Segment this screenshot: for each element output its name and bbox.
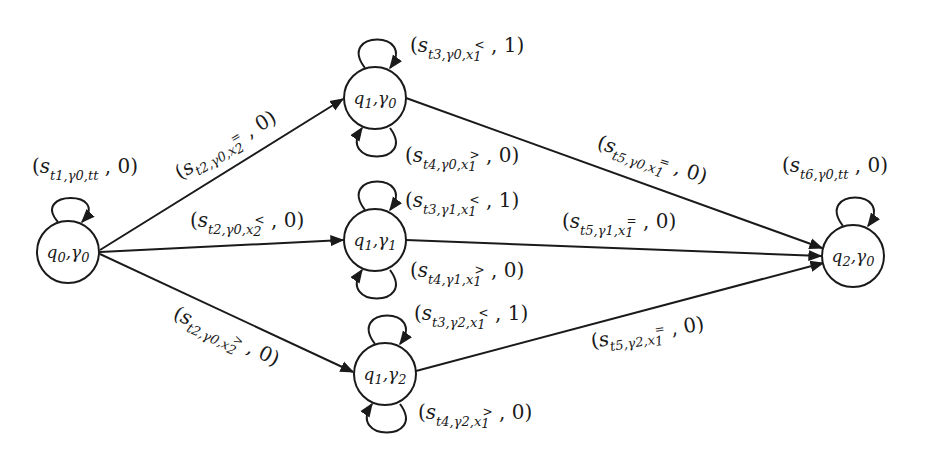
edge-label-t6: (st6,γ0,tt , 0) (782, 153, 888, 182)
edge-label-t3-g1: (st3,γ1,x1< , 1) (405, 188, 519, 219)
edge-label-t5-g0: (st5,γ0,x1= , 0) (593, 130, 711, 194)
node-q0-gamma0: q0,γ0 (37, 221, 99, 283)
state-diagram: q0,γ0 q1,γ0 q1,γ1 q1,γ2 q2,γ0 (st1,γ0,tt… (0, 0, 943, 464)
loop-q1g0-t3 (359, 40, 396, 69)
edge-label-t3-g0: (st3,γ0,x1< , 1) (410, 33, 524, 64)
edge-label-t2-lt: (st2,γ0,x2< , 0) (190, 208, 304, 239)
node-q1-gamma1: q1,γ1 (344, 209, 406, 271)
edge-label-t3-g2: (st3,γ2,x1< , 1) (414, 301, 528, 332)
loop-q1g1-t3 (359, 182, 396, 211)
edge-label-t5-g2: (st5,γ2,x1= , 0) (589, 311, 707, 359)
edge-label-t4-g2: (st4,γ2,x1> , 0) (418, 400, 532, 431)
loop-q1g2-t4 (367, 404, 406, 433)
edge-label-t5-g1: (st5,γ1,x1= , 0) (562, 209, 676, 240)
loop-q1g2-t3 (369, 316, 406, 345)
node-q2-gamma0: q2,γ0 (822, 225, 884, 287)
edge-q1g1-q2g0 (406, 240, 821, 256)
loop-q2g0-t6 (837, 198, 874, 227)
edge-label-t1: (st1,γ0,tt , 0) (32, 154, 138, 183)
edge-label-t4-g1: (st4,γ1,x1> , 0) (410, 258, 524, 289)
edge-label-t4-g0: (st4,γ0,x1> , 0) (405, 143, 519, 174)
loop-q1g0-t4 (357, 128, 396, 157)
loop-q1g1-t4 (357, 270, 396, 299)
node-q1-gamma2: q1,γ2 (354, 343, 416, 405)
loop-q0g0-t1 (52, 198, 89, 222)
edge-q0g0-q1g1 (100, 240, 343, 252)
node-q1-gamma0: q1,γ0 (344, 67, 406, 129)
